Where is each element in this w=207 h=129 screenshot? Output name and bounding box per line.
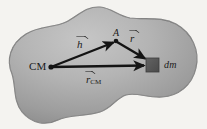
physics-diagram-figure: CM A dm h r rCM [0,0,207,129]
mass-element-square [146,58,159,72]
point-a-dot [114,39,119,44]
point-cm-dot [48,64,53,69]
vector-r-cm-symbol: r [86,74,90,85]
label-mass-element: dm [164,60,177,70]
vector-r-symbol: r [130,33,134,44]
label-vector-h: h [77,39,83,50]
label-center-of-mass: CM [29,61,47,72]
label-vector-r: r [130,33,134,44]
vector-h-symbol: h [77,39,83,50]
label-point-a: A [113,28,119,38]
vector-r-cm-arrow [51,66,144,68]
vector-r-cm-subscript: CM [90,78,101,86]
label-vector-r-cm: rCM [86,74,101,86]
